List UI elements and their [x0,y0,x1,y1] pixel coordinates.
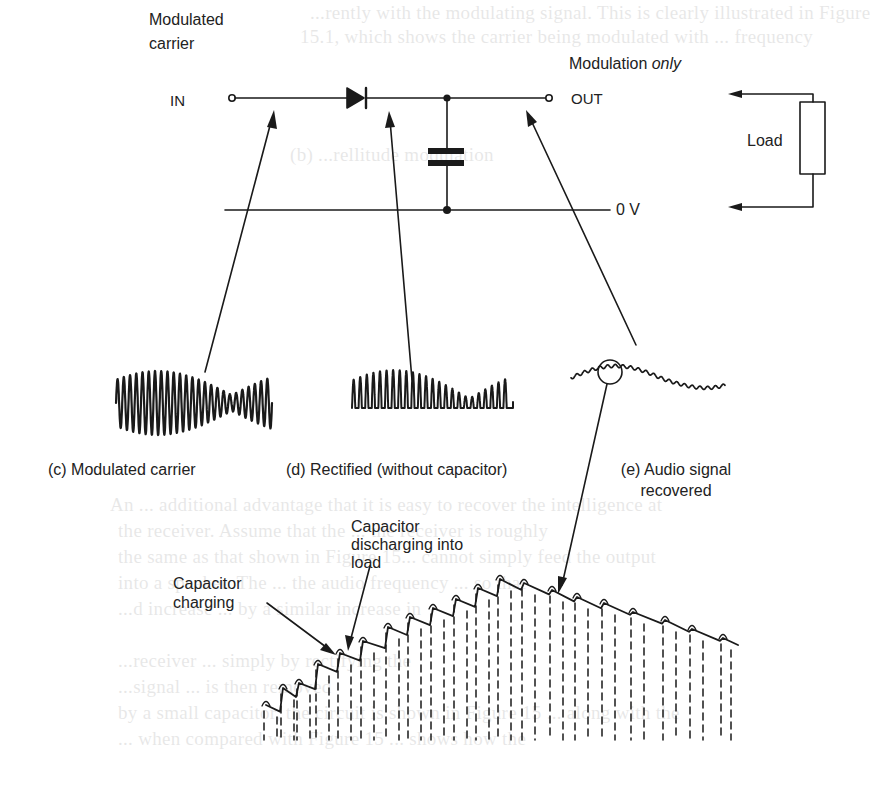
ground-label: 0 V [616,200,640,219]
load-wire [734,174,813,207]
pointer-line [267,603,330,650]
arrow-down-icon [345,635,354,651]
output-terminal-icon [546,95,552,101]
magnifier-circle-icon [598,360,622,384]
capacitor-icon [428,148,464,166]
caption-e-line: (e) Audio signal [606,460,746,479]
annotation-line: Capacitor [173,574,241,593]
capacitor-ripple-detail [262,576,738,741]
annotation-line: charging [173,593,241,612]
input-label-line: Modulated [149,10,224,29]
output-heading: Modulation only [569,54,681,73]
rectified-waveform [352,370,513,408]
arrow-down-icon [558,576,567,594]
arrow-left-icon [728,90,742,98]
in-terminal-label: IN [170,91,185,110]
arrow-left-icon [728,203,742,211]
caption-e: (e) Audio signal recovered [606,460,746,500]
diode-icon [347,88,366,108]
input-label-line: carrier [149,34,224,53]
audio-signal-waveform [571,364,725,389]
annotation-line: load [351,554,463,572]
caption-e-line: recovered [606,481,746,500]
output-heading-text: Modulation [569,55,652,72]
charge-annotation: Capacitor charging [173,574,241,612]
pointer-line [350,566,370,642]
load-label: Load [747,131,783,150]
caption-d: (d) Rectified (without capacitor) [286,460,507,479]
caption-c: (c) Modulated carrier [48,460,196,479]
arrow-up-icon [267,110,277,129]
output-heading-emphasis: only [652,55,681,72]
out-terminal-label: OUT [571,89,603,108]
pointer-line [205,118,272,372]
load-resistor-icon [800,102,825,174]
arrow-up-icon [526,110,537,127]
annotation-line: Capacitor [351,518,463,536]
discharge-annotation: Capacitor discharging into load [351,518,463,572]
pointer-line [562,384,607,585]
modulated-carrier-waveform [116,371,272,435]
pointer-line [390,120,412,380]
load-wire [734,94,813,102]
annotation-line: discharging into [351,536,463,554]
input-label: Modulated carrier [149,10,224,53]
pointer-line [530,118,636,345]
arrow-up-icon [385,111,395,128]
